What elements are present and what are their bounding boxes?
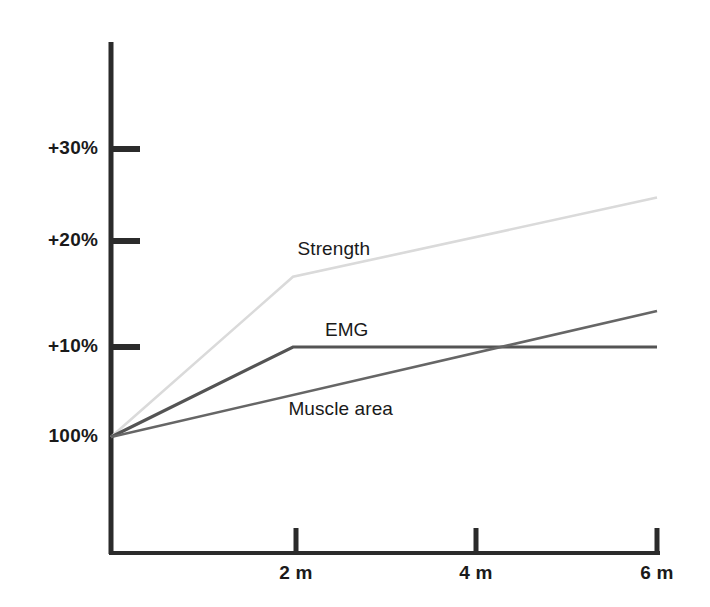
x-tick-marks xyxy=(296,528,657,553)
line-chart: +30% +20% +10% 100% 2 m 4 m 6 m Strength… xyxy=(0,0,710,607)
x-tick-label-6m: 6 m xyxy=(617,562,697,584)
x-tick-label-2m: 2 m xyxy=(256,562,336,584)
chart-canvas xyxy=(0,0,710,607)
y-tick-label-10: +10% xyxy=(10,335,98,357)
series-label-strength: Strength xyxy=(298,238,371,260)
series-line-emg xyxy=(111,347,657,437)
y-tick-label-100: 100% xyxy=(10,425,98,447)
series-label-emg: EMG xyxy=(325,319,369,341)
y-tick-marks xyxy=(111,149,140,347)
y-tick-label-30: +30% xyxy=(10,137,98,159)
y-tick-label-20: +20% xyxy=(10,229,98,251)
x-tick-label-4m: 4 m xyxy=(436,562,516,584)
series-label-muscle-area: Muscle area xyxy=(288,398,393,420)
